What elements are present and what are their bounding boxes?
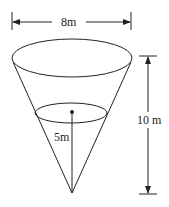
water-depth-label: 5m: [54, 131, 69, 143]
cone-diagram: [0, 0, 169, 207]
center-dot: [70, 110, 74, 114]
diameter-label: 8m: [61, 16, 76, 28]
cone-top-ellipse: [12, 39, 132, 77]
cone: [12, 39, 132, 193]
height-label: 10 m: [137, 114, 161, 126]
